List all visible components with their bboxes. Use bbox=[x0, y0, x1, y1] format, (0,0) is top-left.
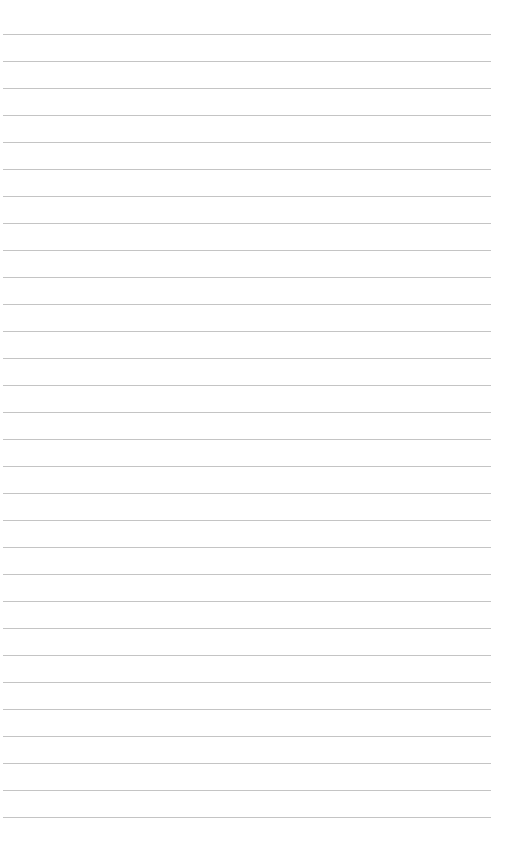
ruled-line bbox=[3, 601, 491, 602]
ruled-line bbox=[3, 763, 491, 764]
ruled-line bbox=[3, 277, 491, 278]
ruled-line bbox=[3, 196, 491, 197]
ruled-line bbox=[3, 655, 491, 656]
ruled-line bbox=[3, 493, 491, 494]
ruled-line bbox=[3, 88, 491, 89]
ruled-line bbox=[3, 304, 491, 305]
ruled-line bbox=[3, 169, 491, 170]
ruled-line bbox=[3, 250, 491, 251]
ruled-line bbox=[3, 709, 491, 710]
ruled-line bbox=[3, 142, 491, 143]
ruled-line bbox=[3, 736, 491, 737]
ruled-line bbox=[3, 223, 491, 224]
ruled-line bbox=[3, 331, 491, 332]
ruled-line bbox=[3, 439, 491, 440]
ruled-line bbox=[3, 34, 491, 35]
ruled-line bbox=[3, 520, 491, 521]
ruled-line bbox=[3, 574, 491, 575]
ruled-line bbox=[3, 466, 491, 467]
ruled-line bbox=[3, 790, 491, 791]
ruled-line bbox=[3, 547, 491, 548]
ruled-line bbox=[3, 358, 491, 359]
ruled-line bbox=[3, 817, 491, 818]
ruled-line bbox=[3, 385, 491, 386]
ruled-line bbox=[3, 115, 491, 116]
ruled-line bbox=[3, 412, 491, 413]
ruled-line bbox=[3, 682, 491, 683]
ruled-line bbox=[3, 61, 491, 62]
ruled-line bbox=[3, 628, 491, 629]
lined-paper-page bbox=[0, 0, 523, 865]
